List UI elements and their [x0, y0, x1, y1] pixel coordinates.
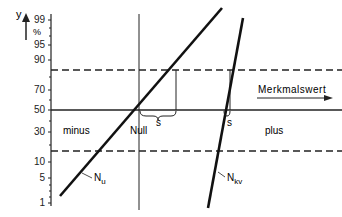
y-axis-unit: %: [33, 27, 41, 37]
s-label-1: s: [156, 117, 161, 128]
tick-95: 95: [34, 39, 45, 50]
s-label-2: s: [227, 117, 232, 128]
tick-70: 70: [34, 84, 45, 95]
region-minus: minus: [63, 125, 90, 136]
tick-5: 5: [39, 172, 45, 183]
tick-10: 10: [34, 156, 45, 167]
tick-1: 1: [39, 197, 45, 208]
region-plus: plus: [265, 125, 283, 136]
tick-30: 30: [34, 126, 45, 137]
tick-50: 50: [34, 104, 45, 115]
region-null: Null: [130, 125, 147, 136]
y-axis-label: y: [16, 8, 22, 20]
tick-99: 99: [34, 14, 45, 25]
tick-90: 90: [34, 54, 45, 65]
nu-label: Nu: [94, 172, 106, 186]
nkv-label: Nkv: [227, 172, 242, 186]
x-axis-label: Merkmalswert: [258, 84, 326, 95]
